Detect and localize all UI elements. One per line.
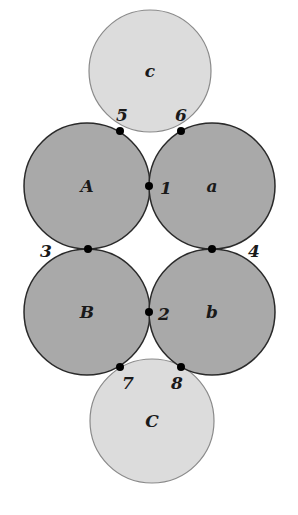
point-label-2: 2 — [157, 304, 170, 324]
contact-point-1 — [145, 182, 153, 190]
circle-label-C: C — [145, 411, 159, 431]
point-label-6: 6 — [175, 105, 187, 125]
contact-point-8 — [177, 363, 185, 371]
tangent-circles-diagram: cCAaBb12345678 — [0, 0, 298, 515]
contact-point-3 — [84, 245, 92, 253]
contact-point-2 — [145, 308, 153, 316]
point-label-8: 8 — [170, 373, 183, 393]
circle-label-b: b — [206, 302, 218, 322]
contact-point-6 — [177, 127, 185, 135]
contact-point-5 — [116, 127, 124, 135]
point-label-7: 7 — [122, 373, 134, 393]
point-label-5: 5 — [116, 105, 128, 125]
point-label-3: 3 — [40, 241, 52, 261]
circle-label-a: a — [206, 176, 217, 196]
point-label-4: 4 — [248, 241, 260, 261]
circle-label-B: B — [79, 302, 94, 322]
point-label-1: 1 — [160, 178, 172, 198]
circle-label-c: c — [145, 61, 156, 81]
contact-point-4 — [208, 245, 216, 253]
circle-label-A: A — [78, 176, 93, 196]
contact-point-7 — [116, 363, 124, 371]
